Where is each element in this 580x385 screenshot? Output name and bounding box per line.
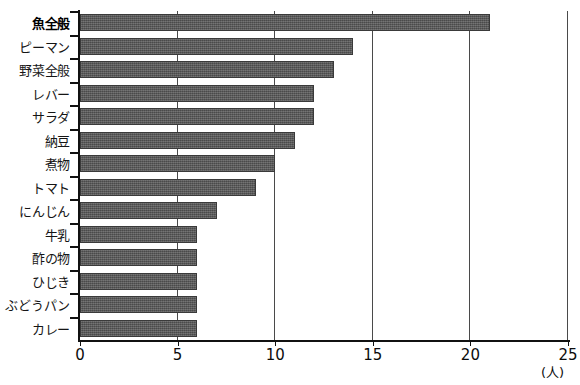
category-label: レバー [0,88,70,101]
y-axis-tick [70,11,79,13]
y-axis-tick [70,129,79,131]
x-axis-tick [568,340,569,346]
x-axis-tick [470,340,471,346]
x-axis-tick-label: 25 [558,348,577,363]
category-label: 納豆 [0,135,70,148]
gridline-15 [372,11,373,340]
bar [80,320,197,337]
x-axis-tick [275,340,276,346]
category-label: 酢の物 [0,252,70,265]
y-axis-tick [70,35,79,37]
bar [80,202,217,219]
x-axis-line [78,340,570,342]
bar [80,61,334,78]
gridline-20 [469,11,470,340]
plot-area [80,11,568,340]
x-axis-tick-label: 0 [75,348,85,363]
category-label: 煮物 [0,158,70,171]
bar [80,179,256,196]
bar [80,155,275,172]
y-axis-tick [70,176,79,178]
y-axis-tick [70,223,79,225]
bar [80,85,314,102]
category-label: ぶどうパン [0,299,70,312]
category-label: サラダ [0,111,70,124]
category-label: ピーマン [0,41,70,54]
y-axis-tick [70,82,79,84]
y-axis-tick [70,58,79,60]
category-label: ひじき [0,276,70,289]
bar [80,132,295,149]
y-axis-tick [70,152,79,154]
x-axis-tick [178,340,179,346]
bar [80,38,353,55]
category-label: トマト [0,182,70,195]
x-axis-tick [80,340,81,346]
x-axis-tick-label: 10 [266,348,285,363]
x-axis-tick-label: 15 [363,348,382,363]
gridline-25 [567,11,568,340]
y-axis-tick [70,199,79,201]
category-label: カレー [0,323,70,336]
bar [80,249,197,266]
bar [80,273,197,290]
x-axis-tick-label: 20 [461,348,480,363]
bar-chart: 魚全般ピーマン野菜全般レバーサラダ納豆煮物トマトにんじん牛乳酢の物ひじきぶどうパ… [0,0,580,385]
category-axis-labels: 魚全般ピーマン野菜全般レバーサラダ納豆煮物トマトにんじん牛乳酢の物ひじきぶどうパ… [0,0,70,385]
y-axis-tick [70,105,79,107]
y-axis-tick [70,293,79,295]
bar [80,296,197,313]
category-label: 魚全般 [0,17,70,30]
bar [80,14,490,31]
x-axis-tick [373,340,374,346]
bar [80,108,314,125]
bar [80,226,197,243]
x-axis-tick-label: 5 [173,348,183,363]
category-label: 野菜全般 [0,64,70,77]
y-axis-tick [70,270,79,272]
y-axis-tick [70,246,79,248]
category-label: にんじん [0,205,70,218]
category-label: 牛乳 [0,229,70,242]
y-axis-tick [70,317,79,319]
unit-label: (人) [541,366,564,379]
